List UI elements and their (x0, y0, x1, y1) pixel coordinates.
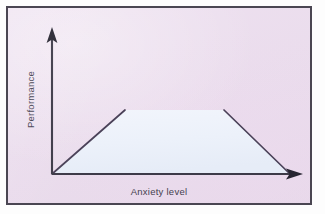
y-axis-label: Performance (25, 52, 36, 148)
chart-frame: Performance Anxiety level (6, 6, 312, 205)
performance-anxiety-plot (8, 8, 310, 203)
figure-root: Performance Anxiety level (0, 0, 325, 214)
x-axis-label: Anxiety level (8, 186, 310, 197)
